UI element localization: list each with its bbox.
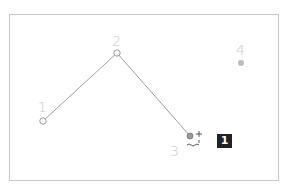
- point-3-label: 3: [170, 143, 179, 159]
- point-4-label: 4: [236, 42, 245, 58]
- segment-1-2: [43, 53, 117, 121]
- point-2-label: 2: [112, 33, 121, 49]
- point-4[interactable]: [238, 60, 244, 66]
- step-badge: 1: [217, 134, 232, 148]
- segment-2-3: [117, 53, 190, 136]
- point-3[interactable]: [187, 133, 193, 139]
- point-1-label: 1: [38, 99, 47, 115]
- point-1[interactable]: [40, 118, 46, 124]
- point-2[interactable]: [114, 50, 120, 56]
- polyline-stage[interactable]: 1 2 3 4: [0, 0, 286, 188]
